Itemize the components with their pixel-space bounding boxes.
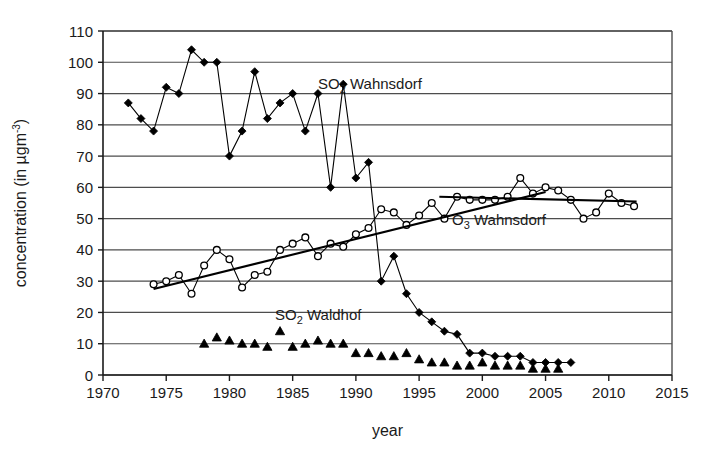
x-tick-label-2005: 2005 bbox=[529, 384, 562, 401]
data-point-marker bbox=[301, 127, 309, 135]
data-point-marker bbox=[427, 358, 436, 366]
so2-waldhof-label: SO2 Waldhof bbox=[275, 306, 362, 326]
data-point-marker bbox=[302, 234, 309, 241]
y-tick-label-80: 80 bbox=[76, 116, 93, 133]
series-o3-wahnsdorf-trend-1974-2005 bbox=[154, 192, 546, 289]
data-point-marker bbox=[440, 327, 448, 335]
series-polyline bbox=[154, 178, 634, 294]
data-point-marker bbox=[440, 358, 449, 366]
data-point-marker bbox=[251, 68, 259, 76]
y-tick-label-30: 30 bbox=[76, 273, 93, 290]
x-tick-label-2010: 2010 bbox=[592, 384, 625, 401]
x-tick-label-1990: 1990 bbox=[339, 384, 372, 401]
data-point-marker bbox=[478, 358, 487, 366]
trend-line bbox=[154, 192, 546, 289]
data-point-marker bbox=[175, 272, 182, 279]
data-point-marker bbox=[352, 231, 359, 238]
data-point-marker bbox=[517, 175, 524, 182]
data-point-marker bbox=[554, 364, 563, 372]
y-tick-label-40: 40 bbox=[76, 241, 93, 258]
data-point-marker bbox=[213, 58, 221, 66]
x-tick-label-2015: 2015 bbox=[655, 384, 688, 401]
data-point-marker bbox=[516, 361, 525, 369]
data-point-marker bbox=[414, 355, 423, 363]
x-tick-label-1985: 1985 bbox=[276, 384, 309, 401]
y-tick-label-10: 10 bbox=[76, 335, 93, 352]
data-point-marker bbox=[402, 290, 410, 298]
data-point-marker bbox=[605, 190, 612, 197]
data-point-marker bbox=[465, 361, 474, 369]
data-point-marker bbox=[188, 290, 195, 297]
y-tick-label-50: 50 bbox=[76, 210, 93, 227]
data-point-marker bbox=[313, 336, 322, 344]
data-point-marker bbox=[453, 330, 461, 338]
data-point-marker bbox=[528, 364, 537, 372]
data-point-marker bbox=[365, 225, 372, 232]
data-point-marker bbox=[162, 83, 170, 91]
data-point-marker bbox=[378, 206, 385, 213]
data-point-marker bbox=[416, 212, 423, 219]
data-point-marker bbox=[390, 252, 398, 260]
data-point-marker bbox=[428, 200, 435, 207]
y-axis-title: concentration (in µgm-3) bbox=[11, 119, 29, 287]
x-tick-label-2000: 2000 bbox=[466, 384, 499, 401]
y-tick-label-20: 20 bbox=[76, 304, 93, 321]
data-point-marker bbox=[402, 348, 411, 356]
data-point-marker bbox=[631, 203, 638, 210]
data-point-marker bbox=[428, 318, 436, 326]
data-point-marker bbox=[150, 281, 157, 288]
data-point-marker bbox=[541, 364, 550, 372]
data-point-marker bbox=[593, 209, 600, 216]
data-point-marker bbox=[163, 278, 170, 285]
data-point-marker bbox=[503, 361, 512, 369]
series-so2-waldhof bbox=[200, 327, 563, 373]
data-point-marker bbox=[275, 327, 284, 335]
y-tick-label-90: 90 bbox=[76, 85, 93, 102]
annotation-layer: SO2 WahnsdorfO3 WahnsdorfSO2 Waldhof bbox=[275, 75, 547, 326]
y-tick-label-60: 60 bbox=[76, 179, 93, 196]
y-tick-label-0: 0 bbox=[85, 367, 93, 384]
data-point-marker bbox=[478, 349, 486, 357]
data-point-marker bbox=[251, 272, 258, 279]
data-point-marker bbox=[555, 187, 562, 194]
series-layer bbox=[124, 46, 637, 373]
series-o3-wahnsdorf bbox=[150, 175, 637, 298]
data-point-marker bbox=[389, 352, 398, 360]
x-tick-label-1975: 1975 bbox=[150, 384, 183, 401]
data-point-marker bbox=[452, 361, 461, 369]
data-point-marker bbox=[377, 277, 385, 285]
data-point-marker bbox=[351, 348, 360, 356]
data-point-marker bbox=[175, 90, 183, 98]
y-tick-label-100: 100 bbox=[68, 54, 93, 71]
data-point-marker bbox=[225, 152, 233, 160]
data-point-marker bbox=[212, 333, 221, 341]
x-tick-label-1980: 1980 bbox=[213, 384, 246, 401]
x-tick-label-1970: 1970 bbox=[86, 384, 119, 401]
data-point-marker bbox=[516, 352, 524, 360]
data-point-marker bbox=[213, 247, 220, 254]
data-point-marker bbox=[491, 352, 499, 360]
data-point-marker bbox=[239, 284, 246, 291]
data-point-marker bbox=[225, 336, 234, 344]
so2-wahnsdorf-label: SO2 Wahnsdorf bbox=[318, 75, 423, 95]
data-point-marker bbox=[377, 352, 386, 360]
y-tick-label-70: 70 bbox=[76, 148, 93, 165]
data-point-marker bbox=[315, 253, 322, 260]
data-point-marker bbox=[542, 184, 549, 191]
data-point-marker bbox=[327, 183, 335, 191]
data-point-marker bbox=[415, 308, 423, 316]
x-axis-title: year bbox=[372, 422, 404, 439]
data-point-marker bbox=[466, 349, 474, 357]
data-point-marker bbox=[364, 348, 373, 356]
chart-canvas: 0102030405060708090100110197019751980198… bbox=[0, 0, 711, 457]
data-point-marker bbox=[264, 268, 271, 275]
data-point-marker bbox=[289, 90, 297, 98]
data-point-marker bbox=[201, 262, 208, 269]
o3-wahnsdorf-label: O3 Wahnsdorf bbox=[452, 211, 547, 231]
data-point-marker bbox=[490, 361, 499, 369]
data-point-marker bbox=[340, 243, 347, 250]
data-point-marker bbox=[567, 358, 575, 366]
data-point-marker bbox=[390, 209, 397, 216]
chart-figure: 0102030405060708090100110197019751980198… bbox=[0, 0, 711, 457]
data-point-marker bbox=[238, 127, 246, 135]
